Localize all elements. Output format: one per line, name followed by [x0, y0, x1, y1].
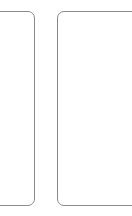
right-panel-content: [58, 12, 132, 205]
left-panel[interactable]: [0, 11, 35, 206]
screen-canvas: [0, 0, 132, 216]
left-panel-content: [0, 12, 34, 205]
right-panel[interactable]: [57, 11, 132, 206]
